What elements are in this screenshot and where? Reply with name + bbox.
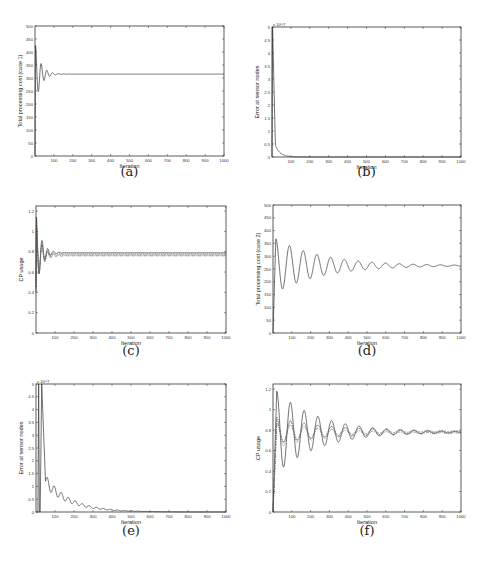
x-tick-label: 300 bbox=[88, 158, 96, 163]
y-tick-label: 0 bbox=[31, 154, 34, 159]
x-tick-label: 1000 bbox=[221, 335, 231, 340]
y-tick-label: 0 bbox=[32, 331, 35, 336]
x-tick-label: 400 bbox=[107, 158, 115, 163]
panel-caption: (c) bbox=[122, 343, 139, 358]
panel-caption: (d) bbox=[358, 343, 376, 358]
x-tick-label: 200 bbox=[307, 514, 315, 519]
x-tick-label: 800 bbox=[420, 514, 428, 519]
x-tick-label: 1000 bbox=[221, 514, 231, 519]
y-axis-label: CP usage bbox=[255, 436, 261, 460]
x-tick-label: 1000 bbox=[219, 158, 229, 163]
x-tick-label: 300 bbox=[90, 514, 98, 519]
x-tick-label: 800 bbox=[183, 158, 191, 163]
y-tick-label: 300 bbox=[264, 254, 272, 259]
x-tick-label: 700 bbox=[401, 335, 409, 340]
axes-frame bbox=[273, 384, 461, 512]
y-tick-label: 200 bbox=[26, 102, 34, 107]
x-tick-label: 800 bbox=[420, 335, 428, 340]
y-axis-label: Error at sensor nodes bbox=[254, 65, 260, 118]
x-tick-label: 100 bbox=[288, 514, 296, 519]
y-tick-label: 0 bbox=[32, 510, 35, 515]
axes-frame bbox=[36, 384, 226, 512]
y-tick-label: 3 bbox=[32, 433, 35, 438]
y-tick-label: 100 bbox=[264, 305, 272, 310]
x-tick-label: 100 bbox=[52, 335, 60, 340]
figure-panels: 1002003004005006007008009001000050100150… bbox=[0, 0, 483, 564]
panel-caption: (f) bbox=[360, 523, 375, 538]
x-tick-label: 700 bbox=[166, 335, 174, 340]
series-line-cp3 bbox=[36, 228, 226, 282]
x-tick-label: 300 bbox=[325, 159, 333, 164]
y-tick-label: 200 bbox=[264, 279, 272, 284]
y-tick-label: 3.5 bbox=[264, 64, 270, 69]
y-tick-label: 1.2 bbox=[28, 209, 34, 214]
y-tick-label: 0.5 bbox=[264, 142, 270, 147]
y-tick-label: 2.5 bbox=[264, 90, 270, 95]
y-tick-label: 1.5 bbox=[28, 471, 34, 476]
x-tick-label: 800 bbox=[420, 159, 428, 164]
y-exponent-label: x 10^7 bbox=[273, 22, 286, 27]
chart-panel-b: 100200300400500600700800900100000.511.52… bbox=[254, 22, 466, 179]
y-tick-label: 1.2 bbox=[265, 387, 271, 392]
chart-panel-a: 1002003004005006007008009001000050100150… bbox=[17, 24, 229, 180]
x-tick-label: 400 bbox=[345, 514, 353, 519]
y-tick-label: 3.5 bbox=[28, 420, 34, 425]
y-tick-label: 0.4 bbox=[265, 469, 271, 474]
chart-panel-d: 1002003004005006007008009001000050100150… bbox=[255, 203, 466, 359]
axes-frame bbox=[272, 27, 461, 157]
y-tick-label: 1.5 bbox=[264, 116, 270, 121]
x-tick-label: 300 bbox=[90, 335, 98, 340]
y-tick-label: 500 bbox=[26, 24, 34, 29]
y-tick-label: 450 bbox=[264, 215, 272, 220]
x-tick-label: 900 bbox=[204, 514, 212, 519]
x-tick-label: 200 bbox=[71, 514, 79, 519]
y-tick-label: 2 bbox=[268, 103, 271, 108]
x-tick-label: 200 bbox=[306, 159, 314, 164]
series-line-cp4 bbox=[36, 225, 226, 287]
y-tick-label: 2 bbox=[32, 458, 35, 463]
y-tick-label: 4.5 bbox=[28, 394, 34, 399]
panel-caption: (b) bbox=[357, 164, 375, 179]
x-tick-label: 600 bbox=[147, 335, 155, 340]
x-tick-label: 700 bbox=[164, 158, 172, 163]
x-tick-label: 700 bbox=[401, 159, 409, 164]
y-tick-label: 0.8 bbox=[265, 428, 271, 433]
x-tick-label: 900 bbox=[204, 335, 212, 340]
y-tick-label: 250 bbox=[26, 89, 34, 94]
y-tick-label: 250 bbox=[264, 267, 272, 272]
y-exponent-label: x 10^7 bbox=[37, 379, 50, 384]
x-tick-label: 200 bbox=[69, 158, 77, 163]
y-tick-label: 0.4 bbox=[28, 290, 34, 295]
y-tick-label: 2.5 bbox=[28, 446, 34, 451]
panel-caption: (e) bbox=[122, 523, 140, 538]
y-tick-label: 150 bbox=[26, 115, 34, 120]
y-tick-label: 1 bbox=[268, 129, 271, 134]
chart-panel-c: 100200300400500600700800900100000.20.40.… bbox=[18, 206, 231, 358]
x-tick-label: 200 bbox=[71, 335, 79, 340]
x-tick-label: 400 bbox=[344, 159, 352, 164]
y-tick-label: 4 bbox=[32, 407, 35, 412]
y-tick-label: 3 bbox=[268, 77, 271, 82]
y-tick-label: 0.8 bbox=[28, 249, 34, 254]
x-tick-label: 900 bbox=[439, 514, 447, 519]
y-axis-label: Total processing cost (case 2) bbox=[255, 232, 261, 305]
series-line-cost bbox=[35, 46, 224, 157]
x-tick-label: 600 bbox=[147, 514, 155, 519]
y-tick-label: 350 bbox=[26, 63, 34, 68]
y-tick-label: 0 bbox=[269, 331, 272, 336]
x-tick-label: 700 bbox=[166, 514, 174, 519]
y-tick-label: 1 bbox=[269, 407, 272, 412]
chart-panel-f: 100200300400500600700800900100000.20.40.… bbox=[255, 384, 466, 538]
series-line-cp1 bbox=[273, 391, 461, 512]
x-tick-label: 200 bbox=[307, 335, 315, 340]
x-tick-label: 100 bbox=[52, 514, 60, 519]
y-tick-label: 0.5 bbox=[28, 497, 34, 502]
x-tick-label: 600 bbox=[382, 335, 390, 340]
x-tick-label: 900 bbox=[439, 159, 447, 164]
y-tick-label: 500 bbox=[264, 203, 272, 208]
series-line-error bbox=[272, 27, 461, 157]
y-tick-label: 300 bbox=[26, 76, 34, 81]
y-tick-label: 5 bbox=[32, 382, 35, 387]
y-tick-label: 400 bbox=[26, 50, 34, 55]
x-tick-label: 1000 bbox=[456, 514, 466, 519]
